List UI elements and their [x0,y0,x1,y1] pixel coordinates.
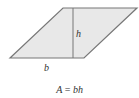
formula-rhs: bh [73,84,83,95]
base-label: b [44,63,49,73]
formula-lhs: A [56,84,62,95]
formula-equals: = [65,84,71,95]
height-label: h [76,29,81,39]
area-formula: A = bh [0,85,139,95]
